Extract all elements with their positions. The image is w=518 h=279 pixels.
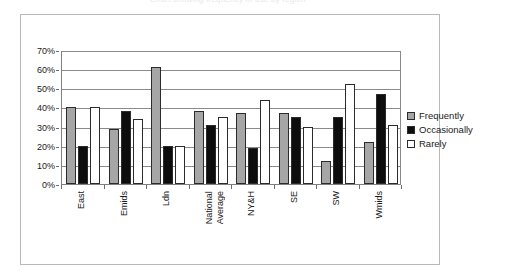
x-tick-mark: [316, 185, 317, 189]
x-axis-label: Ldn: [161, 191, 172, 206]
bar-frequently[interactable]: [66, 107, 76, 184]
bar-group: [105, 51, 148, 184]
legend-label: Frequently: [419, 110, 464, 121]
y-tick-mark: [56, 108, 59, 109]
bar-rarely[interactable]: [388, 125, 398, 184]
bar-rarely[interactable]: [345, 84, 355, 184]
x-tick-mark: [146, 185, 147, 189]
bar-frequently[interactable]: [236, 113, 246, 184]
chart-frame: 0%10%20%30%40%50%60%70% EastEmidsLdnNati…: [20, 14, 440, 265]
bar-occasionally[interactable]: [206, 125, 216, 184]
bar-group: [275, 51, 318, 184]
x-axis-label: NY&H: [246, 191, 257, 216]
bar-occasionally[interactable]: [333, 117, 343, 184]
y-tick-label: 40%: [37, 103, 55, 113]
bar-rarely[interactable]: [90, 107, 100, 184]
y-tick-label: 0%: [42, 180, 55, 190]
y-tick-mark: [56, 128, 59, 129]
x-tick-mark: [231, 185, 232, 189]
y-tick-label: 10%: [37, 161, 55, 171]
y-tick-mark: [56, 166, 59, 167]
legend-label: Rarely: [419, 138, 446, 149]
x-axis-label: SE: [289, 191, 300, 203]
bar-occasionally[interactable]: [121, 111, 131, 184]
bars-layer: [62, 51, 401, 184]
y-tick-mark: [56, 89, 59, 90]
bar-group: [190, 51, 233, 184]
y-tick-mark: [56, 70, 59, 71]
bar-frequently[interactable]: [364, 142, 374, 184]
bar-group: [62, 51, 105, 184]
bar-occasionally[interactable]: [78, 146, 88, 184]
bar-frequently[interactable]: [194, 111, 204, 184]
x-axis-label: SW: [331, 191, 342, 206]
bar-frequently[interactable]: [151, 67, 161, 184]
caption-strip: Chart showing frequency of use by region: [0, 0, 518, 12]
bar-rarely[interactable]: [133, 119, 143, 184]
bar-occasionally[interactable]: [291, 117, 301, 184]
y-tick-mark: [56, 185, 59, 186]
x-tick-mark: [104, 185, 105, 189]
y-tick-mark: [56, 51, 59, 52]
bar-group: [232, 51, 275, 184]
bar-rarely[interactable]: [303, 127, 313, 184]
y-tick-label: 20%: [37, 142, 55, 152]
x-axis-labels: EastEmidsLdnNational AverageNY&HSESWWmid…: [61, 191, 401, 271]
y-tick-label: 60%: [37, 65, 55, 75]
x-axis-label: National Average: [204, 191, 226, 224]
x-tick-mark: [401, 185, 402, 189]
y-tick-mark: [56, 147, 59, 148]
plot-area: [61, 51, 401, 185]
legend-item[interactable]: Rarely: [407, 138, 446, 149]
x-axis-label: Wmids: [374, 191, 385, 219]
bar-occasionally[interactable]: [248, 148, 258, 184]
legend-item[interactable]: Frequently: [407, 110, 464, 121]
x-tick-mark: [274, 185, 275, 189]
x-axis-ticks: [61, 185, 401, 190]
frequently-swatch: [407, 112, 415, 120]
bar-rarely[interactable]: [218, 117, 228, 184]
y-tick-label: 30%: [37, 123, 55, 133]
bar-frequently[interactable]: [279, 113, 289, 184]
x-axis-label: East: [76, 191, 87, 209]
y-axis: 0%10%20%30%40%50%60%70%: [21, 51, 59, 185]
occasionally-swatch: [407, 126, 415, 134]
bar-group: [147, 51, 190, 184]
bar-rarely[interactable]: [175, 146, 185, 184]
x-tick-mark: [359, 185, 360, 189]
bar-group: [360, 51, 403, 184]
bar-frequently[interactable]: [109, 129, 119, 185]
rarely-swatch: [407, 140, 415, 148]
bar-rarely[interactable]: [260, 100, 270, 184]
legend-item[interactable]: Occasionally: [407, 124, 473, 135]
y-tick-label: 70%: [37, 46, 55, 56]
bar-occasionally[interactable]: [163, 146, 173, 184]
bar-occasionally[interactable]: [376, 94, 386, 184]
x-tick-mark: [189, 185, 190, 189]
bar-frequently[interactable]: [321, 161, 331, 184]
caption-text: Chart showing frequency of use by region: [150, 0, 306, 4]
x-axis-label: Emids: [119, 191, 130, 216]
y-tick-label: 50%: [37, 84, 55, 94]
legend-label: Occasionally: [419, 124, 473, 135]
x-tick-mark: [61, 185, 62, 189]
bar-group: [317, 51, 360, 184]
